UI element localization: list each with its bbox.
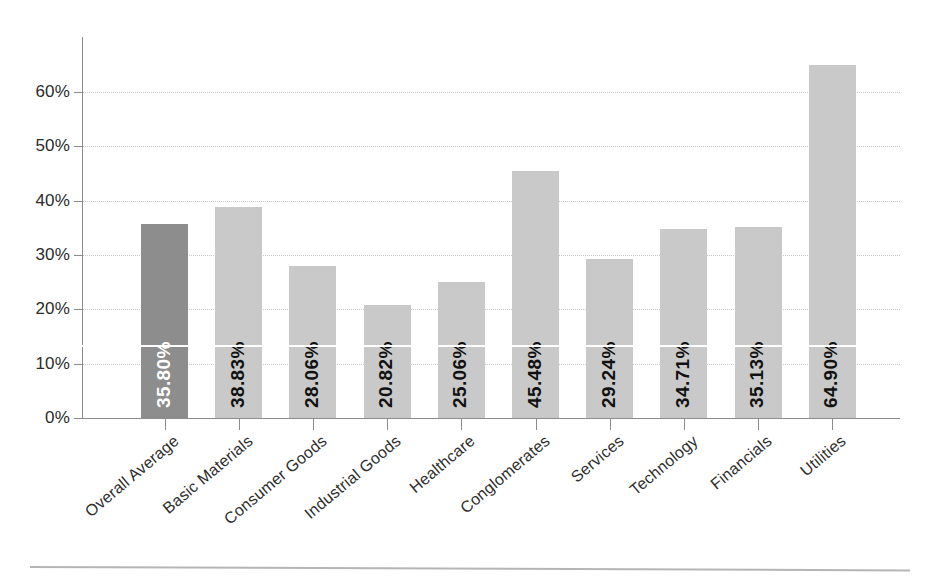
bar-value-label: 34.71% [672,341,694,408]
x-axis-line [82,418,900,419]
y-tick-label: 50% [8,136,70,156]
bar-value-label: 20.82% [375,341,397,408]
bar-value-label: 35.13% [746,341,768,408]
y-tick-mark [74,364,83,365]
bar[interactable]: 35.13% [735,227,782,418]
bar[interactable]: 38.83% [215,207,262,418]
y-tick-label: 10% [8,354,70,374]
x-axis-label: Services [567,432,627,486]
x-tick-mark [387,419,388,430]
bar-value-label: 35.80% [153,341,175,408]
bars-container: 35.80%38.83%28.06%20.82%25.06%45.48%29.2… [82,37,900,418]
page-bottom-rule [30,566,910,571]
x-axis-label: Utilities [797,432,849,480]
bar[interactable]: 28.06% [289,266,336,418]
bar-value-label: 28.06% [301,341,323,408]
y-tick-label: 20% [8,299,70,319]
bar-value-label: 64.90% [820,341,842,408]
y-tick-mark [74,201,83,202]
bar[interactable]: 45.48% [512,171,559,418]
y-tick-label: 60% [8,82,70,102]
y-tick-mark [74,255,83,256]
y-tick-mark [74,146,83,147]
x-tick-mark [536,419,537,430]
x-tick-mark [239,419,240,430]
x-tick-mark [832,419,833,430]
y-tick-label: 0% [8,408,70,428]
bar[interactable]: 35.80% [141,224,188,419]
y-tick-label: 40% [8,191,70,211]
y-tick-label: 30% [8,245,70,265]
bar[interactable]: 34.71% [660,229,707,418]
y-tick-mark [74,418,83,419]
bar[interactable]: 29.24% [586,259,633,418]
bar[interactable]: 25.06% [438,282,485,418]
y-tick-mark [74,309,83,310]
x-tick-mark [461,419,462,430]
x-tick-mark [684,419,685,430]
x-tick-mark [758,419,759,430]
x-tick-mark [313,419,314,430]
x-axis-label: Technology [626,432,701,499]
bar-chart: 0%10%20%30%40%50%60% 35.80%38.83%28.06%2… [0,0,930,585]
bar-value-label: 29.24% [598,341,620,408]
x-axis-label: Healthcare [406,432,478,497]
bar[interactable]: 64.90% [809,65,856,418]
bar-value-label: 38.83% [227,341,249,408]
bar-value-label: 45.48% [524,341,546,408]
y-tick-mark [74,92,83,93]
x-axis-label: Financials [707,432,775,493]
bar-value-label: 25.06% [449,341,471,408]
x-tick-mark [610,419,611,430]
bar[interactable]: 20.82% [364,305,411,418]
y-axis-ticks: 0%10%20%30%40%50%60% [0,0,70,585]
x-tick-mark [165,419,166,430]
